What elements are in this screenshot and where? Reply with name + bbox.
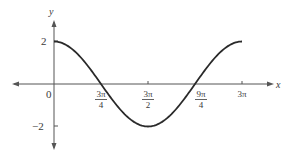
y-axis-up-arrow-icon [52,20,57,27]
svg-text:4: 4 [199,100,204,110]
y-tick-label-neg2: −2 [32,120,44,132]
y-axis-down-arrow-icon [52,143,57,150]
svg-text:2: 2 [146,100,151,110]
x-tick-label-9pi-4: 9π 4 [195,89,207,110]
x-axis-label: x [275,79,281,90]
svg-text:3π: 3π [143,89,153,99]
chart-canvas: y x 2 −2 0 3π 4 3π 2 9π 4 3π [0,0,286,151]
x-tick-label-3pi: 3π [237,89,247,99]
svg-text:4: 4 [99,100,104,110]
y-tick-label-2: 2 [41,35,47,47]
y-axis-label: y [48,6,54,17]
x-axis-left-arrow-icon [12,82,19,87]
svg-text:9π: 9π [196,89,206,99]
x-tick-label-3pi-4: 3π 4 [95,89,107,110]
origin-label: 0 [46,88,52,100]
x-axis-right-arrow-icon [267,82,274,87]
x-tick-label-3pi-2: 3π 2 [142,89,154,110]
svg-text:3π: 3π [96,89,106,99]
